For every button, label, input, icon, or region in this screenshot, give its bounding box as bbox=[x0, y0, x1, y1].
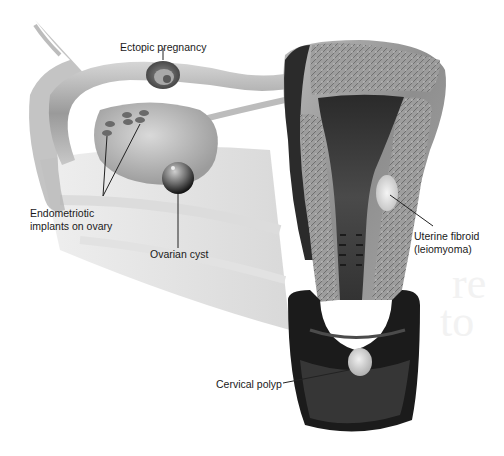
ovarian-cyst bbox=[162, 162, 194, 194]
label-line: Uterine fibroid bbox=[414, 230, 479, 243]
label-endometriotic-implants: Endometriotic implants on ovary bbox=[30, 207, 112, 232]
uterine-fibroid bbox=[376, 175, 398, 211]
label-cervical-polyp: Cervical polyp bbox=[216, 378, 282, 391]
label-ovarian-cyst: Ovarian cyst bbox=[150, 248, 208, 261]
label-uterine-fibroid: Uterine fibroid (leiomyoma) bbox=[414, 230, 479, 255]
illustration: re to bbox=[0, 0, 504, 456]
label-line: (leiomyoma) bbox=[414, 243, 479, 256]
label-line: implants on ovary bbox=[30, 220, 112, 233]
cervical-polyp bbox=[348, 348, 372, 376]
label-line: Endometriotic bbox=[30, 207, 112, 220]
label-ectopic-pregnancy: Ectopic pregnancy bbox=[120, 41, 206, 54]
